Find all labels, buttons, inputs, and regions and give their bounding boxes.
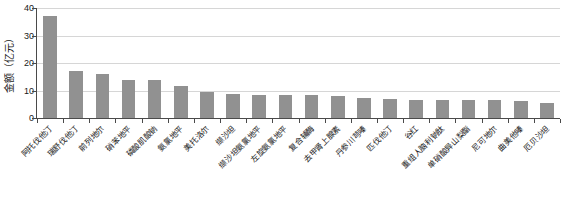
x-axis-category-label: 曲美他嗪 [496,124,525,153]
y-axis-tick-labels: 010203040 [14,8,34,118]
x-axis-category-label: 氨氯地平 [156,124,185,153]
y-axis-tick-mark [32,63,36,64]
bar[interactable] [226,94,240,118]
bar[interactable] [200,92,214,118]
x-axis-category-label: 厄贝沙坦 [522,124,551,153]
bar[interactable] [436,100,450,118]
bar[interactable] [122,80,136,119]
x-axis-tick-mark [194,119,195,123]
x-axis-category-label: 尼可地尔 [470,124,499,153]
bars-layer [37,8,560,118]
x-axis-category-labels: 阿托伐他汀瑞舒伐他汀前列地尔硝苯地平磷酸肌酸钠氨氯地平美托洛尔缬沙坦缬沙坦氨氯地… [0,124,566,198]
x-axis-tick-mark [455,119,456,123]
x-axis-category-label: 谷红 [403,124,421,142]
y-axis-tick-label: 0 [14,114,34,123]
x-axis-tick-mark [325,119,326,123]
y-axis-tick-mark [32,91,36,92]
x-axis-category-label: 匹伐他汀 [365,124,394,153]
x-axis-tick-mark [220,119,221,123]
bar[interactable] [357,98,371,118]
bar[interactable] [514,101,528,118]
x-axis-tick-mark [37,119,38,123]
y-axis-tick-mark [32,8,36,9]
y-axis-tick-label: 20 [14,59,34,68]
bar[interactable] [96,74,110,118]
bar[interactable] [174,86,188,118]
x-axis-tick-mark [299,119,300,123]
bar[interactable] [148,80,162,118]
x-axis-tick-mark [142,119,143,123]
x-axis-tick-mark [89,119,90,123]
y-axis-tick-label: 30 [14,31,34,40]
x-axis-category-label: 美托洛尔 [182,124,211,153]
x-axis-tick-mark [272,119,273,123]
bar-chart: 金额（亿元） 010203040 阿托伐他汀瑞舒伐他汀前列地尔硝苯地平磷酸肌酸钠… [0,0,566,198]
x-axis-tick-mark [63,119,64,123]
bar[interactable] [383,99,397,118]
x-axis-tick-mark [377,119,378,123]
x-axis-tick-mark [246,119,247,123]
bar[interactable] [409,100,423,118]
bar[interactable] [488,100,502,118]
x-axis-tick-mark [115,119,116,123]
bar[interactable] [279,95,293,118]
y-axis-tick-mark [32,36,36,37]
bar[interactable] [305,95,319,118]
x-axis-tick-marks [37,119,560,123]
y-axis-tick-label: 10 [14,86,34,95]
x-axis-category-label: 缬沙坦 [214,124,237,147]
x-axis-tick-mark [429,119,430,123]
x-axis-tick-mark [168,119,169,123]
bar[interactable] [462,100,476,118]
bar[interactable] [69,71,83,118]
y-axis-tick-label: 40 [14,4,34,13]
x-axis-tick-mark [351,119,352,123]
bar[interactable] [540,103,554,118]
x-axis-tick-mark [508,119,509,123]
x-axis-tick-mark [560,119,561,123]
x-axis-tick-mark [482,119,483,123]
x-axis-tick-mark [534,119,535,123]
x-axis-category-label: 前列地尔 [78,124,107,153]
x-axis-tick-mark [403,119,404,123]
y-axis-tick-mark [32,118,36,119]
bar[interactable] [331,96,345,118]
bar[interactable] [252,95,266,118]
bar[interactable] [43,16,57,118]
